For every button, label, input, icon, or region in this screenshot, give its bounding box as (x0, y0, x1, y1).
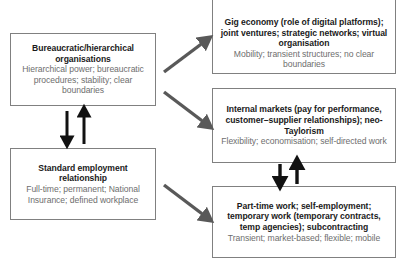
arrow-standard-to-part-time (164, 185, 205, 216)
bureaucratic-box-title: Bureaucratic/hierarchical organisations (15, 43, 151, 64)
part-time-box-title: Part-time work; self-employment; tempora… (217, 201, 391, 233)
arrow-bureaucratic-to-internal-markets (164, 92, 205, 123)
organisational-forms-diagram: Bureaucratic/hierarchical organisations … (0, 0, 405, 263)
gig-economy-box[interactable]: Gig economy (role of digital platforms);… (212, 0, 396, 74)
internal-markets-box-subtitle: Flexibility; economisation; self-directe… (221, 136, 386, 147)
bureaucratic-hierarchical-organisations-box[interactable]: Bureaucratic/hierarchical organisations … (10, 33, 156, 106)
internal-markets-box-title: Internal markets (pay for performance, c… (217, 104, 391, 136)
part-time-work-box[interactable]: Part-time work; self-employment; tempora… (212, 186, 396, 258)
arrow-bureaucratic-to-gig-economy (164, 42, 204, 72)
part-time-box-subtitle: Transient; market-based; flexible; mobil… (228, 233, 380, 244)
standard-employment-relationship-box[interactable]: Standard employment relationship Full-ti… (10, 148, 156, 220)
gig-economy-box-title: Gig economy (role of digital platforms);… (217, 17, 391, 49)
internal-markets-box[interactable]: Internal markets (pay for performance, c… (212, 88, 396, 163)
gig-economy-box-subtitle: Mobility; transient structures; no clear… (217, 49, 391, 70)
bureaucratic-box-subtitle: Hierarchical power; bureaucratic procedu… (15, 64, 151, 96)
standard-employment-box-title: Standard employment relationship (15, 163, 151, 184)
standard-employment-box-subtitle: Full-time; permanent; National Insurance… (15, 184, 151, 205)
